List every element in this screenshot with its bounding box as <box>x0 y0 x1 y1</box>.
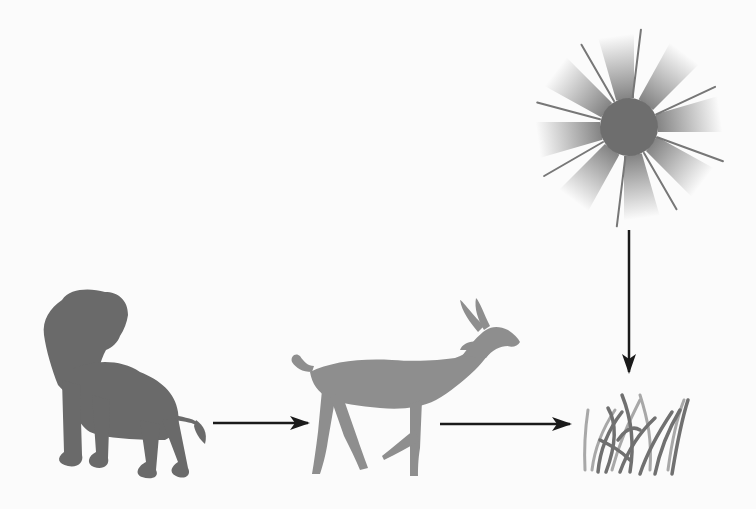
grass-icon <box>585 395 688 474</box>
sun-icon <box>535 30 723 227</box>
antelope-icon <box>292 298 520 476</box>
sun-disc <box>600 98 658 156</box>
food-chain-diagram <box>0 0 756 509</box>
lion-icon <box>44 290 206 479</box>
